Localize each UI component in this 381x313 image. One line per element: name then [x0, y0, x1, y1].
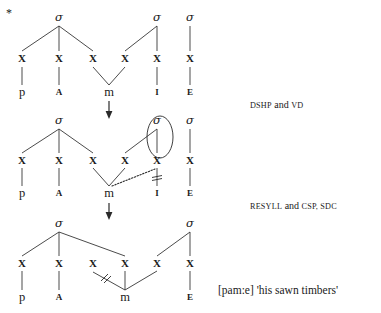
association-line [22, 232, 59, 256]
x-slot: X [55, 52, 63, 64]
x-slot: X [18, 257, 26, 269]
rule-name-resyll: RESYLL [250, 202, 282, 211]
rule-label-step2: RESYLL and CSP, SDC [250, 200, 337, 211]
x-slot: X [186, 154, 194, 166]
derivation-arrow-1 [106, 101, 113, 119]
melody-segment: A [56, 188, 63, 198]
association-line [59, 232, 125, 256]
melody-segment: E [187, 188, 193, 198]
x-slot: X [89, 154, 97, 166]
figure-canvas: * σ σ σ X X X X X X p A m I E [0, 0, 381, 313]
x-slot: X [55, 257, 63, 269]
melody-segment: E [187, 292, 193, 302]
sigma-node: σ [55, 113, 64, 127]
x-slot: X [18, 154, 26, 166]
rule-name-vd: VD [291, 101, 303, 110]
derivation-arrow-2 [106, 203, 113, 220]
x-slot: X [186, 52, 194, 64]
melody-segment: m [104, 85, 114, 99]
x-slot: X [153, 257, 161, 269]
melody-segment: I [155, 188, 159, 198]
association-line [93, 168, 109, 186]
melody-segment: p [19, 186, 25, 200]
x-slot: X [55, 154, 63, 166]
sigma-node: σ [153, 10, 162, 24]
melody-segment: A [56, 292, 63, 302]
sigma-node: σ [186, 10, 195, 24]
sigma-node: σ [55, 216, 64, 230]
ungrammatical-star: * [6, 6, 12, 20]
phonology-derivation-diagram: * σ σ σ X X X X X X p A m I E [0, 0, 381, 313]
x-slot: X [186, 257, 194, 269]
association-line [93, 67, 109, 85]
association-line [157, 232, 190, 256]
tree-input: σ σ σ X X X X X X p A m I E [18, 10, 195, 99]
x-slot: X [121, 52, 129, 64]
rule-name-dshp: DSHP [250, 101, 272, 110]
sigma-node: σ [186, 216, 195, 230]
sigma-node: σ [55, 10, 64, 24]
melody-segment: m [120, 290, 130, 304]
association-line [125, 26, 157, 51]
melody-segment: m [104, 186, 114, 200]
x-slot: X [121, 154, 129, 166]
sigma-node: σ [186, 113, 195, 127]
tree-output: σ σ X X X X X X p A m E [18, 216, 195, 304]
association-line [22, 26, 59, 51]
phonetic-gloss: [pam:e] 'his sawn timbers' [218, 284, 338, 297]
association-line [59, 26, 93, 51]
melody-segment: A [56, 87, 63, 97]
rule-name-csp-sdc: CSP, SDC [302, 202, 338, 211]
x-slot: X [121, 257, 129, 269]
association-line [109, 67, 125, 85]
association-line [59, 129, 93, 153]
x-slot: X [153, 52, 161, 64]
arrow-head [106, 212, 113, 220]
association-line [125, 129, 157, 153]
melody-segment: p [19, 290, 25, 304]
x-slot: X [89, 52, 97, 64]
melody-segment: p [19, 85, 25, 99]
delinked-association-line [93, 272, 125, 290]
x-slot: X [89, 257, 97, 269]
melody-segment: E [187, 87, 193, 97]
sigma-node: σ [153, 113, 162, 127]
rule-label-step1: DSHP and VD [250, 99, 303, 110]
x-slot: X [18, 52, 26, 64]
spreading-association-line [112, 169, 155, 186]
association-line [109, 168, 125, 186]
arrow-head [106, 111, 113, 119]
association-line [125, 271, 157, 290]
x-slot: X [153, 154, 161, 166]
melody-segment: I [155, 87, 159, 97]
tree-middle: σ σ σ X X X X X X p A m [18, 113, 195, 200]
association-line [22, 129, 59, 153]
